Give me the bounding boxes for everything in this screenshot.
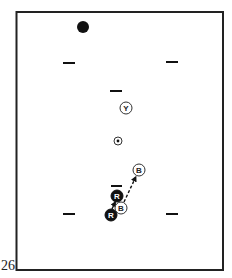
player-r-upper: R <box>111 190 123 202</box>
ball-icon <box>77 21 89 33</box>
player-r-lower-label: R <box>108 211 114 220</box>
player-y-label: Y <box>123 104 129 113</box>
player-r-upper-label: R <box>114 192 120 201</box>
play-diagram: Y B R B R <box>0 0 232 278</box>
page-number: 26 <box>1 258 15 274</box>
player-y: Y <box>120 102 132 114</box>
player-r-lower: R <box>105 209 117 221</box>
player-b-lower-label: B <box>118 204 124 213</box>
arrow-b-to-b <box>124 178 136 203</box>
player-b-upper-label: B <box>136 166 142 175</box>
player-b-upper: B <box>133 164 145 176</box>
target-icon <box>114 137 122 145</box>
